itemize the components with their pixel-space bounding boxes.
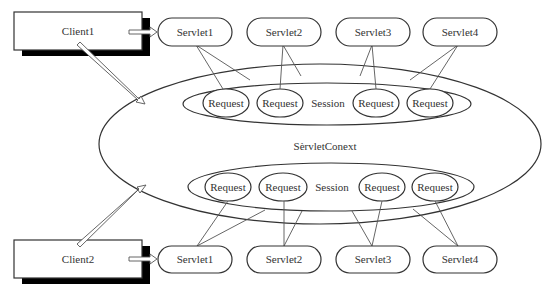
servlet-node: Servlet1 <box>158 246 232 273</box>
request-label: Request <box>364 181 399 193</box>
client-label: Client1 <box>62 25 94 37</box>
arrow-icon <box>77 185 146 247</box>
request-label: Request <box>412 97 447 109</box>
request-label: Request <box>208 97 243 109</box>
servlet-node: Servlet2 <box>247 246 321 273</box>
servlet-label: Servlet1 <box>177 26 214 38</box>
top-servlets: Servlet1 Servlet2 Servlet3 Servlet4 <box>158 18 497 46</box>
client2-node: Client2 <box>14 240 150 284</box>
servlet-label: Servlet3 <box>355 26 392 38</box>
servlet-label: Servlet2 <box>266 253 303 265</box>
top-session: Request Request Session Request Request <box>183 83 471 125</box>
servlet-label: Servlet3 <box>355 253 392 265</box>
servlet-node: Servlet3 <box>336 246 410 273</box>
servlet-node: Servlet3 <box>336 18 410 46</box>
request-label: Request <box>358 97 393 109</box>
request-label: Request <box>417 181 452 193</box>
servlet-label: Servlet1 <box>177 253 214 265</box>
bottom-session: Request Request Session Request Request <box>188 163 474 211</box>
servlet-label: Servlet4 <box>442 253 479 265</box>
session-label: Session <box>311 97 345 109</box>
session-label: Session <box>315 181 349 193</box>
request-label: Request <box>265 181 300 193</box>
bottom-servlets: Servlet1 Servlet2 Servlet3 Servlet4 <box>158 246 497 273</box>
servlet-context-diagram: Request Request Session Request Request … <box>0 0 552 292</box>
servlet-node: Servlet4 <box>423 246 497 273</box>
servlet-context-label: SèrvletConext <box>294 140 357 152</box>
servlet-node: Servlet4 <box>423 18 497 46</box>
request-label: Request <box>210 181 245 193</box>
servlet-label: Servlet2 <box>266 26 303 38</box>
client-label: Client2 <box>62 253 94 265</box>
servlet-node: Servlet1 <box>158 18 232 46</box>
servlet-node: Servlet2 <box>247 18 321 46</box>
servlet-label: Servlet4 <box>442 26 479 38</box>
request-label: Request <box>262 97 297 109</box>
